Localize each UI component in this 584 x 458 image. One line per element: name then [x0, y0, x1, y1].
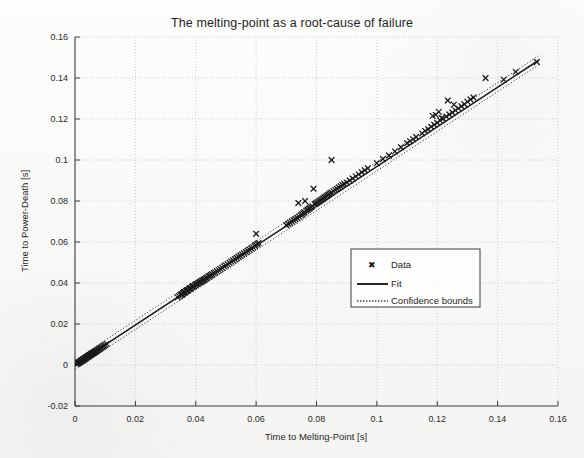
svg-text:0.04: 0.04	[187, 414, 205, 424]
x-axis-label: Time to Melting-Point [s]	[265, 431, 367, 442]
svg-text:0.12: 0.12	[50, 114, 68, 124]
svg-text:0.02: 0.02	[127, 414, 145, 424]
svg-text:0.08: 0.08	[50, 196, 68, 206]
svg-text:0.1: 0.1	[55, 155, 68, 165]
svg-text:0.02: 0.02	[50, 319, 68, 329]
svg-text:0.04: 0.04	[50, 278, 68, 288]
svg-text:0.08: 0.08	[308, 414, 326, 424]
x-marker-icon: ✖	[368, 260, 376, 270]
svg-text:0.1: 0.1	[371, 414, 384, 424]
svg-text:0: 0	[72, 414, 77, 424]
fit-line	[75, 60, 538, 364]
svg-text:-0.02: -0.02	[47, 401, 68, 411]
scatter-plot: 00.020.040.060.080.10.120.140.16-0.0200.…	[0, 0, 584, 458]
legend-label-data: Data	[391, 259, 412, 270]
svg-text:0.14: 0.14	[489, 414, 507, 424]
svg-text:0.06: 0.06	[50, 237, 68, 247]
legend-label-fit: Fit	[391, 278, 402, 289]
tick-labels: 00.020.040.060.080.10.120.140.16-0.0200.…	[47, 32, 566, 424]
svg-text:0.16: 0.16	[50, 32, 68, 42]
legend-label-confidence-bounds: Confidence bounds	[391, 295, 473, 306]
legend[interactable]: ✖ Data Fit Confidence bounds	[351, 249, 480, 307]
axis-ticks	[75, 37, 558, 406]
y-axis-label: Time to Power-Death [s]	[19, 170, 30, 272]
svg-text:0: 0	[63, 360, 68, 370]
chart-page: The melting-point as a root-cause of fai…	[0, 0, 584, 458]
grid-lines	[75, 37, 558, 406]
svg-text:0.12: 0.12	[428, 414, 446, 424]
svg-text:0.14: 0.14	[50, 73, 68, 83]
axes-frame	[75, 37, 558, 406]
svg-text:0.06: 0.06	[247, 414, 265, 424]
svg-text:0.16: 0.16	[549, 414, 567, 424]
